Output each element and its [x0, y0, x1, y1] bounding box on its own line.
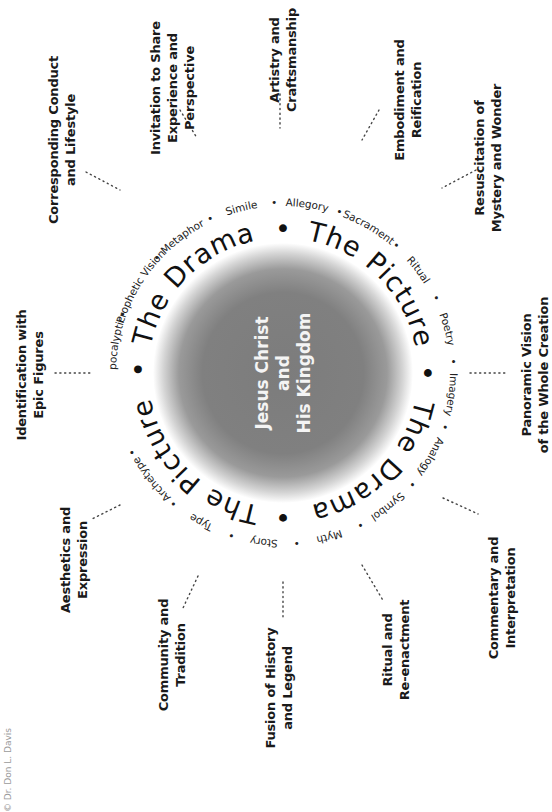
connector-corresponding: [86, 172, 120, 190]
label-line: Aesthetics and: [57, 507, 74, 613]
label-line: of the Whole Creation: [535, 297, 552, 453]
label-line: Panoramic Vision: [518, 297, 535, 453]
label-line: and Legend: [279, 627, 296, 748]
label-line: Corresponding Conduct: [45, 56, 62, 224]
label-resuscitation: Resuscitation of Mystery and Wonder: [471, 84, 505, 232]
label-line: Reification: [408, 39, 425, 160]
label-aesthetics: Aesthetics and Expression: [57, 507, 91, 613]
label-ritual: Ritual and Re-enactment: [379, 600, 413, 700]
center-title-line: and: [273, 313, 294, 434]
label-line: Commentary and: [485, 537, 502, 660]
connector-embodiment: [362, 110, 379, 140]
label-fusion: Fusion of History and Legend: [262, 627, 296, 748]
label-line: Artistry and: [266, 8, 283, 112]
label-line: Community and: [155, 599, 172, 711]
label-artistry: Artistry and Craftsmanship: [266, 8, 300, 112]
label-invitation: Invitation to Share Experience and Persp…: [147, 21, 198, 155]
label-line: Interpretation: [502, 537, 519, 660]
label-line: Expression: [74, 507, 91, 613]
label-line: Embodiment and: [391, 39, 408, 160]
label-panoramic: Panoramic Vision of the Whole Creation: [518, 297, 552, 453]
center-title-line: Jesus Christ: [252, 313, 273, 434]
connector-ritual: [362, 565, 384, 602]
center-title-line: His Kingdom: [294, 313, 315, 434]
label-line: and Lifestyle: [62, 56, 79, 224]
label-line: Ritual and: [379, 600, 396, 700]
label-line: Mystery and Wonder: [488, 84, 505, 232]
copyright-notice: © Dr. Don L. Davis: [3, 728, 13, 812]
center-title: Jesus Christ and His Kingdom: [252, 313, 315, 434]
label-line: Experience and: [164, 21, 181, 155]
label-line: Perspective: [181, 21, 198, 155]
label-embodiment: Embodiment and Reification: [391, 39, 425, 160]
label-line: Craftsmanship: [283, 8, 300, 112]
label-line: Fusion of History: [262, 627, 279, 748]
label-line: Epic Figures: [30, 310, 47, 441]
connector-aesthetics: [90, 505, 120, 520]
label-line: Resuscitation of: [471, 84, 488, 232]
label-line: Tradition: [172, 599, 189, 711]
label-corresponding: Corresponding Conduct and Lifestyle: [45, 56, 79, 224]
label-line: Identification with: [13, 310, 30, 441]
label-identification: Identification with Epic Figures: [13, 310, 47, 441]
label-line: Invitation to Share: [147, 21, 164, 155]
label-line: Re-enactment: [396, 600, 413, 700]
label-community: Community and Tradition: [155, 599, 189, 711]
label-commentary: Commentary and Interpretation: [485, 537, 519, 660]
connector-commentary: [443, 498, 478, 514]
